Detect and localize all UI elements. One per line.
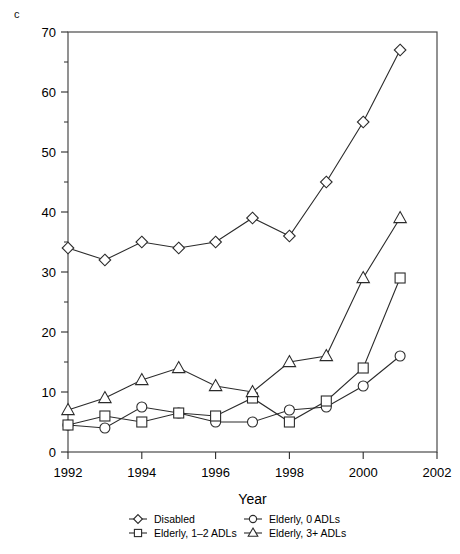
marker-triangle bbox=[173, 362, 185, 373]
marker-diamond bbox=[210, 236, 222, 248]
legend-label: Elderly, 0 ADLs bbox=[269, 513, 340, 525]
legend-entry-circle[interactable]: Elderly, 0 ADLs bbox=[244, 513, 340, 525]
marker-square bbox=[321, 396, 331, 406]
marker-circle bbox=[395, 351, 405, 361]
marker-circle bbox=[284, 405, 294, 415]
marker-square bbox=[63, 420, 73, 430]
marker-diamond bbox=[394, 44, 406, 56]
marker-square bbox=[174, 408, 184, 418]
marker-triangle bbox=[357, 272, 369, 283]
legend-entry-diamond[interactable]: Disabled bbox=[129, 513, 195, 525]
legend-label: Elderly, 3+ ADLs bbox=[269, 527, 346, 539]
marker-triangle bbox=[209, 380, 221, 391]
marker-circle bbox=[358, 381, 368, 391]
marker-diamond bbox=[173, 242, 185, 254]
y-tick-label: 70 bbox=[42, 25, 56, 40]
line-chart: 010203040506070199219941996199820002002Y… bbox=[0, 0, 460, 554]
marker-diamond bbox=[321, 176, 333, 188]
marker-triangle bbox=[248, 528, 258, 536]
marker-square bbox=[358, 363, 368, 373]
marker-square bbox=[395, 273, 405, 283]
x-tick-label: 1994 bbox=[127, 465, 156, 480]
y-tick-label: 20 bbox=[42, 325, 56, 340]
marker-circle bbox=[100, 423, 110, 433]
marker-square bbox=[100, 411, 110, 421]
marker-triangle bbox=[99, 392, 111, 403]
y-tick-label: 60 bbox=[42, 85, 56, 100]
legend-label: Disabled bbox=[154, 513, 195, 525]
marker-square bbox=[211, 411, 221, 421]
marker-diamond bbox=[134, 515, 143, 524]
marker-diamond bbox=[136, 236, 148, 248]
marker-diamond bbox=[62, 242, 74, 254]
marker-triangle bbox=[394, 212, 406, 223]
x-tick-label: 1996 bbox=[201, 465, 230, 480]
marker-diamond bbox=[247, 212, 259, 224]
marker-square bbox=[137, 417, 147, 427]
series-line bbox=[68, 50, 400, 260]
x-tick-label: 1992 bbox=[54, 465, 83, 480]
marker-diamond bbox=[284, 230, 296, 242]
legend-entry-triangle[interactable]: Elderly, 3+ ADLs bbox=[244, 527, 346, 539]
y-tick-label: 0 bbox=[49, 445, 56, 460]
y-tick-label: 30 bbox=[42, 265, 56, 280]
marker-square bbox=[134, 529, 141, 536]
marker-circle bbox=[249, 515, 256, 522]
legend-entry-square[interactable]: Elderly, 1–2 ADLs bbox=[129, 527, 237, 539]
x-tick-label: 1998 bbox=[275, 465, 304, 480]
legend-label: Elderly, 1–2 ADLs bbox=[154, 527, 237, 539]
marker-square bbox=[284, 417, 294, 427]
y-tick-label: 10 bbox=[42, 385, 56, 400]
marker-diamond bbox=[99, 254, 111, 266]
figure-panel-c: c 01020304050607019921994199619982000200… bbox=[0, 0, 460, 554]
y-tick-label: 40 bbox=[42, 205, 56, 220]
x-axis-title: Year bbox=[238, 491, 267, 507]
series-square bbox=[63, 273, 405, 430]
series-triangle bbox=[62, 212, 407, 415]
y-tick-label: 50 bbox=[42, 145, 56, 160]
series-line bbox=[68, 218, 400, 410]
marker-triangle bbox=[320, 350, 332, 361]
marker-circle bbox=[248, 417, 258, 427]
series-circle bbox=[63, 351, 405, 433]
x-tick-label: 2002 bbox=[423, 465, 452, 480]
series-diamond bbox=[62, 44, 406, 266]
marker-diamond bbox=[357, 116, 369, 128]
x-tick-label: 2000 bbox=[349, 465, 378, 480]
marker-circle bbox=[137, 402, 147, 412]
series-line bbox=[68, 278, 400, 425]
